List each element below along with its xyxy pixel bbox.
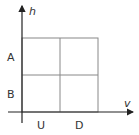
y-axis-label: h xyxy=(29,5,36,18)
grid xyxy=(22,38,98,112)
quadrant-diagram: h v A B U D xyxy=(0,0,139,135)
column-label-d: D xyxy=(75,119,83,132)
x-axis-label: v xyxy=(124,97,131,110)
row-label-a: A xyxy=(7,51,15,64)
column-label-u: U xyxy=(37,119,45,132)
row-label-b: B xyxy=(7,88,15,101)
